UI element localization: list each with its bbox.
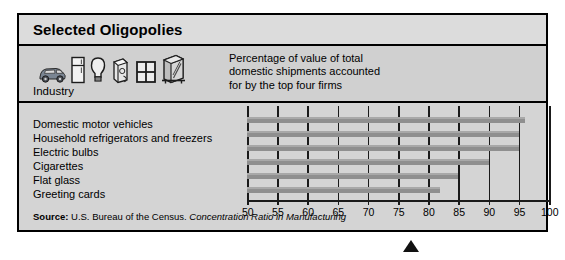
plot-band: Domestic motor vehiclesHousehold refrige…: [19, 103, 546, 230]
cigarette-pack-icon: [110, 56, 132, 84]
x-axis-tick-label: 75: [393, 206, 405, 218]
x-axis-tick: [307, 200, 309, 205]
window-pane-icon: [135, 60, 157, 84]
bar: [247, 187, 440, 193]
category-label: Flat glass: [33, 173, 212, 187]
bar: [247, 131, 519, 137]
bar: [247, 145, 519, 151]
industry-label: Industry: [33, 85, 74, 97]
x-axis-tick-label: 100: [541, 206, 559, 218]
figure-root: Selected Oligopolies: [0, 0, 565, 260]
x-axis-tick: [277, 200, 279, 205]
title-band: Selected Oligopolies: [19, 15, 546, 46]
page-marker-triangle-icon: [403, 240, 419, 252]
selected-oligopolies-figure: Selected Oligopolies: [17, 13, 548, 232]
x-axis-tick-label: 80: [423, 206, 435, 218]
category-label-list: Domestic motor vehiclesHousehold refrige…: [33, 117, 212, 201]
x-axis-tick: [519, 200, 521, 205]
x-axis-tick: [338, 200, 340, 205]
bar: [247, 173, 458, 179]
category-label: Greeting cards: [33, 187, 212, 201]
bar: [247, 159, 489, 165]
x-axis-tick-label: 95: [514, 206, 526, 218]
source-prefix: Source:: [33, 211, 68, 222]
light-bulb-icon: [89, 56, 107, 84]
x-axis-tick: [428, 200, 430, 205]
x-axis-tick: [458, 200, 460, 205]
page-title: Selected Oligopolies: [33, 21, 183, 38]
category-label: Electric bulbs: [33, 145, 212, 159]
chart-caption: Percentage of value of total domestic sh…: [229, 52, 380, 92]
greeting-card-icon: [160, 54, 186, 84]
x-axis-tick-label: 85: [453, 206, 465, 218]
source-text: U.S. Bureau of the Census.: [71, 211, 187, 222]
x-axis-tick: [247, 200, 249, 205]
x-axis-tick: [398, 200, 400, 205]
gridline: [549, 106, 551, 200]
x-axis-tick: [489, 200, 491, 205]
car-icon: [37, 64, 67, 84]
source-italic-title: Concentration Ratio in Manufacturing: [189, 211, 346, 222]
header-band: Industry Percentage of value of total do…: [19, 46, 546, 103]
source-note: Source: U.S. Bureau of the Census. Conce…: [33, 211, 346, 222]
category-label: Household refrigerators and freezers: [33, 131, 212, 145]
refrigerator-icon: [70, 56, 86, 84]
x-axis-tick: [549, 200, 551, 205]
x-axis-tick-label: 70: [363, 206, 375, 218]
bar: [247, 117, 525, 123]
category-label: Cigarettes: [33, 159, 212, 173]
x-axis-tick: [368, 200, 370, 205]
category-label: Domestic motor vehicles: [33, 117, 212, 131]
industry-icon-row: [37, 50, 186, 84]
x-axis-tick-label: 90: [484, 206, 496, 218]
